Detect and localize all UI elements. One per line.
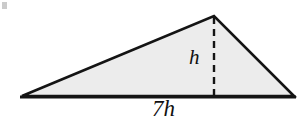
scan-speck-artifact: [2, 2, 7, 9]
triangle-diagram-svg: [0, 0, 300, 121]
triangle-shape: [22, 16, 294, 96]
geometry-figure: h 7h: [0, 0, 300, 121]
height-label: h: [189, 47, 200, 68]
base-label: 7h: [152, 97, 175, 120]
